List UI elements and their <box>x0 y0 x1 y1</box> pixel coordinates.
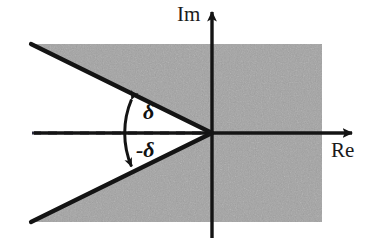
imaginary-axis-label: Im <box>177 4 200 25</box>
complex-plane-sector-figure: Im Re δ -δ <box>0 0 380 251</box>
angle-label-delta-negative: -δ <box>136 139 155 161</box>
figure-canvas <box>0 0 380 251</box>
real-axis-label: Re <box>331 140 354 161</box>
angle-label-delta-positive: δ <box>143 101 154 123</box>
